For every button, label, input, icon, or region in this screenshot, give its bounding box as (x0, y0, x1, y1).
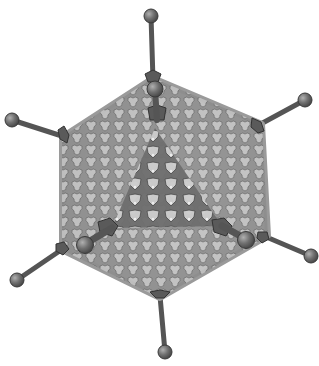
knob-lower-left (10, 273, 24, 287)
knob-lower-right (304, 249, 318, 263)
knob-lower-right-front (238, 232, 255, 249)
knob-lower-left-front (77, 237, 94, 254)
knob-left (5, 113, 19, 127)
knob-bottom (158, 345, 172, 359)
knob-right (298, 93, 312, 107)
adenovirus-diagram (0, 0, 319, 366)
knob-top-front (147, 81, 163, 97)
knob-top-back (144, 9, 158, 23)
